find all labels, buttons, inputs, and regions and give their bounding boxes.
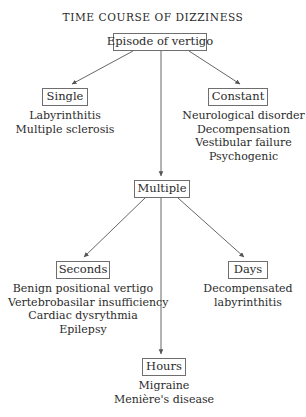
list-item: Labyrinthitis	[0, 109, 130, 123]
list-item: Epilepsy	[8, 323, 158, 337]
list-item: Menière's disease	[100, 393, 228, 407]
edge-root-to-constant	[189, 51, 240, 84]
node-single[interactable]: Single	[42, 88, 88, 106]
list-seconds-causes: Benign positional vertigo Vertebrobasila…	[8, 282, 158, 336]
node-label: Hours	[146, 361, 182, 373]
node-multiple[interactable]: Multiple	[134, 180, 190, 198]
list-days-causes: Decompensated labyrinthitis	[192, 282, 304, 309]
node-label: Single	[47, 91, 84, 103]
list-item: Migraine	[100, 379, 228, 393]
list-item: Vestibular failure	[181, 136, 306, 150]
node-seconds[interactable]: Seconds	[56, 261, 110, 279]
list-item: Neurological disorder	[181, 109, 306, 123]
list-item: Benign positional vertigo	[8, 282, 158, 296]
edge-multiple-to-seconds	[84, 198, 145, 257]
flowchart-edges	[0, 0, 306, 417]
list-constant-causes: Neurological disorder Decompensation Ves…	[181, 109, 306, 163]
diagram-title: TIME COURSE OF DIZZINESS	[0, 11, 306, 23]
list-item: Psychogenic	[181, 150, 306, 164]
list-item: Decompensated	[192, 282, 304, 296]
node-label: Seconds	[59, 264, 108, 276]
list-item: Decompensation	[181, 123, 306, 137]
list-item: Vertebrobasilar insufficiency	[8, 296, 158, 310]
list-item: labyrinthitis	[192, 296, 304, 310]
node-label: Constant	[212, 91, 265, 103]
edge-multiple-to-days	[178, 198, 244, 257]
node-days[interactable]: Days	[228, 261, 268, 279]
edge-root-to-single	[72, 51, 133, 84]
node-episode-of-vertigo[interactable]: Episode of vertigo	[113, 33, 207, 51]
node-label: Episode of vertigo	[107, 36, 213, 48]
list-item: Cardiac dysrythmia	[8, 309, 158, 323]
list-hours-causes: Migraine Menière's disease	[100, 379, 228, 406]
list-item: Multiple sclerosis	[0, 123, 130, 137]
node-label: Multiple	[137, 183, 186, 195]
node-hours[interactable]: Hours	[142, 358, 186, 376]
list-single-causes: Labyrinthitis Multiple sclerosis	[0, 109, 130, 136]
node-constant[interactable]: Constant	[208, 88, 268, 106]
time-course-of-dizziness-diagram: TIME COURSE OF DIZZINESS Episode of vert…	[0, 0, 306, 417]
node-label: Days	[234, 264, 262, 276]
